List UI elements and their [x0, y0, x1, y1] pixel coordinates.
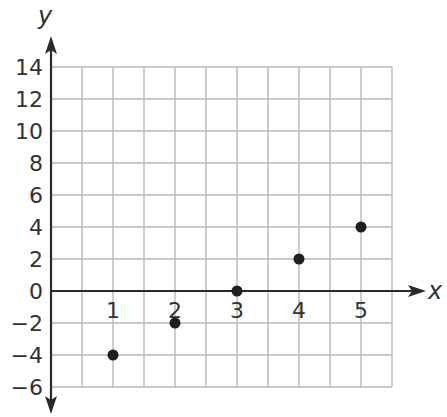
data-point — [294, 254, 305, 265]
x-tick-label: 5 — [354, 298, 368, 323]
y-tick-label: 0 — [29, 279, 43, 304]
x-tick-label: 1 — [106, 298, 120, 323]
y-tick-label: 4 — [29, 215, 43, 240]
y-tick-label: −2 — [11, 311, 43, 336]
data-point — [170, 318, 181, 329]
axes — [45, 36, 426, 414]
y-tick-label: 8 — [29, 151, 43, 176]
y-axis-label: y — [37, 2, 53, 30]
x-tick-label: 3 — [230, 298, 244, 323]
coordinate-plane: y x 14121086420−2−4−6 12345 — [0, 0, 447, 417]
x-tick-label: 4 — [292, 298, 306, 323]
y-tick-label: 14 — [15, 55, 43, 80]
y-tick-label: −4 — [11, 343, 43, 368]
y-tick-label: 10 — [15, 119, 43, 144]
data-point — [232, 286, 243, 297]
y-tick-label: 12 — [15, 87, 43, 112]
x-axis-label: x — [427, 277, 443, 305]
y-tick-label: 2 — [29, 247, 43, 272]
grid — [51, 67, 392, 387]
data-point — [356, 222, 367, 233]
y-tick-label: −6 — [11, 375, 43, 400]
y-tick-labels: 14121086420−2−4−6 — [11, 55, 43, 400]
y-tick-label: 6 — [29, 183, 43, 208]
x-tick-labels: 12345 — [106, 298, 368, 323]
data-point — [108, 350, 119, 361]
